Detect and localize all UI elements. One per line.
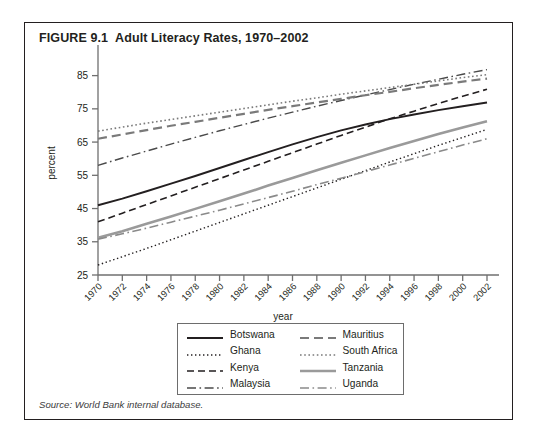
x-tick-label: 1972 — [107, 281, 129, 303]
legend-swatch-icon — [186, 379, 224, 389]
legend-item-malaysia: Malaysia — [178, 378, 291, 389]
legend-swatch-icon — [299, 329, 337, 339]
y-tick-label: 85 — [77, 70, 89, 81]
y-tick-label: 25 — [77, 270, 89, 281]
x-tick-label: 2002 — [471, 281, 493, 303]
legend-label: Botswana — [230, 329, 275, 340]
x-tick-label: 1974 — [131, 281, 153, 303]
chart-legend: BotswanaMauritiusGhanaSouth AfricaKenyaT… — [177, 323, 404, 395]
legend-label: South Africa — [343, 345, 398, 356]
legend-swatch-icon — [186, 362, 224, 372]
legend-label: Uganda — [343, 378, 379, 389]
y-tick-label: 35 — [77, 236, 89, 247]
series-line-ghana — [98, 129, 487, 265]
legend-item-mauritius: Mauritius — [291, 329, 404, 340]
legend-swatch-icon — [299, 346, 337, 356]
y-tick-label: 75 — [77, 103, 89, 114]
legend-item-tanzania: Tanzania — [291, 362, 404, 373]
x-axis-title: year — [273, 311, 292, 322]
x-tick-label: 1996 — [398, 281, 420, 303]
x-tick-label: 1984 — [253, 281, 275, 303]
y-tick-label: 65 — [77, 137, 89, 148]
legend-swatch-icon — [186, 346, 224, 356]
y-tick-label: 55 — [77, 170, 89, 181]
x-tick-label: 1986 — [277, 281, 299, 303]
legend-label: Ghana — [230, 345, 261, 356]
figure-page: FIGURE 9.1Adult Literacy Rates, 1970–200… — [0, 0, 537, 448]
y-tick-label: 45 — [77, 203, 89, 214]
series-line-south-africa — [98, 75, 487, 131]
x-tick-label: 1982 — [228, 281, 250, 303]
legend-swatch-icon — [299, 379, 337, 389]
legend-item-ghana: Ghana — [178, 345, 291, 356]
series-line-malaysia — [98, 70, 487, 166]
chart-plot-area: 2535455565758519701972197419761978198019… — [25, 23, 514, 323]
source-note-text: Source: World Bank internal database. — [39, 399, 203, 410]
legend-label: Mauritius — [343, 329, 384, 340]
x-tick-label: 2000 — [447, 281, 469, 303]
x-tick-label: 1976 — [155, 281, 177, 303]
y-axis-title: percent — [46, 146, 57, 179]
series-line-tanzania — [98, 121, 487, 238]
line-chart-svg: 2535455565758519701972197419761978198019… — [25, 23, 514, 323]
x-tick-label: 1980 — [204, 281, 226, 303]
legend-item-botswana: Botswana — [178, 329, 291, 340]
source-note: Source: World Bank internal database. — [39, 399, 203, 410]
x-tick-label: 1970 — [82, 281, 104, 303]
legend-label: Kenya — [230, 362, 259, 373]
figure-frame: FIGURE 9.1Adult Literacy Rates, 1970–200… — [24, 22, 513, 420]
legend-label: Tanzania — [343, 362, 384, 373]
series-line-mauritius — [98, 79, 487, 139]
legend-swatch-icon — [186, 329, 224, 339]
x-tick-label: 1990 — [326, 281, 348, 303]
x-tick-label: 1978 — [180, 281, 202, 303]
legend-item-uganda: Uganda — [291, 378, 404, 389]
legend-grid: BotswanaMauritiusGhanaSouth AfricaKenyaT… — [178, 324, 403, 394]
legend-label: Malaysia — [230, 378, 270, 389]
x-tick-label: 1992 — [350, 281, 372, 303]
x-tick-label: 1998 — [423, 281, 445, 303]
series-line-kenya — [98, 89, 487, 222]
x-tick-label: 1994 — [374, 281, 396, 303]
x-tick-label: 1988 — [301, 281, 323, 303]
legend-swatch-icon — [299, 362, 337, 372]
legend-item-kenya: Kenya — [178, 362, 291, 373]
legend-item-south-africa: South Africa — [291, 345, 404, 356]
